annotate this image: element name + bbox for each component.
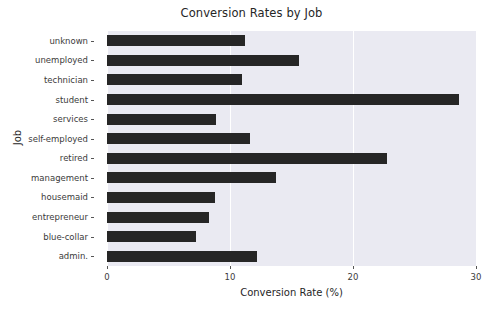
bar-unknown [107,35,245,46]
x-tick-label-10: 10 [225,272,236,282]
bar-retired [107,153,387,164]
y-tick-mark-admin. [91,256,94,257]
y-tick-label-management: management [31,173,88,183]
y-tick-mark-unemployed [91,60,94,61]
y-tick-label-entrepreneur: entrepreneur [32,212,88,222]
y-tick-label-services: services [53,114,88,124]
x-tick-label-30: 30 [471,272,482,282]
x-axis-title: Conversion Rate (%) [107,287,476,298]
y-tick-mark-self-employed [91,139,94,140]
y-tick-label-retired: retired [60,153,88,163]
gridline-x-20 [353,31,354,266]
bar-self-employed [107,133,250,144]
x-tick-mark-10 [230,266,231,269]
y-tick-label-housemaid: housemaid [41,192,88,202]
x-tick-label-0: 0 [104,272,109,282]
x-tick-label-20: 20 [348,272,359,282]
bar-housemaid [107,192,215,203]
y-tick-mark-entrepreneur [91,217,94,218]
y-tick-mark-management [91,178,94,179]
x-tick-mark-0 [107,266,108,269]
y-tick-label-technician: technician [44,75,88,85]
y-tick-label-self-employed: self-employed [28,134,88,144]
gridline-x-10 [230,31,231,266]
plot-area [107,31,476,266]
y-tick-mark-housemaid [91,197,94,198]
x-tick-mark-30 [476,266,477,269]
y-tick-label-student: student [56,95,89,105]
y-tick-mark-services [91,119,94,120]
bar-student [107,94,459,105]
bar-admin. [107,251,257,262]
y-tick-label-unemployed: unemployed [35,55,88,65]
y-tick-mark-student [91,100,94,101]
y-tick-mark-retired [91,158,94,159]
chart-title: Conversion Rates by Job [0,6,503,20]
y-axis-tick-labels: unknownunemployedtechnicianstudentservic… [0,31,96,266]
y-tick-mark-unknown [91,41,94,42]
chart-figure: Conversion Rates by Job Job unknownunemp… [0,0,503,320]
y-tick-label-unknown: unknown [49,36,88,46]
x-tick-mark-20 [353,266,354,269]
bar-unemployed [107,55,299,66]
bar-services [107,114,216,125]
bar-technician [107,74,242,85]
y-tick-mark-technician [91,80,94,81]
x-axis-tick-labels: 0102030 [0,266,503,284]
bar-blue-collar [107,231,196,242]
y-tick-mark-blue-collar [91,237,94,238]
bar-management [107,172,276,183]
bar-entrepreneur [107,212,209,223]
y-tick-label-blue-collar: blue-collar [43,232,88,242]
y-tick-label-admin.: admin. [59,251,88,261]
